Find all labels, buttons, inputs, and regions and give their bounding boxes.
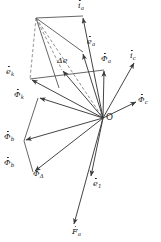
- label-phi-b-lower-subscript: b: [11, 162, 15, 168]
- vector-phi-b: [26, 118, 103, 140]
- label-phi-k-symbol: Φ: [14, 91, 21, 99]
- label-i-a-subscript: a: [81, 5, 84, 11]
- label-phi-b-lower-symbol: Φ: [4, 159, 11, 167]
- construction-line-ea: [36, 18, 83, 52]
- construction-line-top: [36, 16, 83, 18]
- label-e-a: ea: [87, 38, 95, 47]
- label-i-c: ic: [130, 52, 136, 61]
- label-e-k-symbol: e: [6, 68, 11, 76]
- label-e-a-symbol: e: [87, 38, 92, 46]
- label-phi-k: Φk: [14, 91, 24, 100]
- label-phi-b-upper-symbol: Φ: [4, 133, 11, 141]
- label-origin: O: [106, 113, 113, 122]
- phasor-diagram-canvas: [0, 0, 161, 242]
- construction-line-ek-phia: [30, 70, 104, 79]
- label-phi-c-subscript: c: [145, 99, 148, 105]
- label-delta-e-symbol: Δe: [57, 56, 68, 65]
- label-phi-a: Φa: [101, 55, 111, 64]
- label-e-a-subscript: a: [92, 41, 95, 47]
- label-e-1: e1: [93, 180, 101, 189]
- label-e-1-subscript: 1: [98, 183, 102, 189]
- label-i-a-symbol: i: [78, 2, 81, 10]
- label-F-a-symbol: F: [72, 228, 78, 236]
- label-phi-c-symbol: Φ: [138, 96, 145, 104]
- label-i-c-symbol: i: [130, 52, 133, 60]
- label-phi-b-upper: Φb: [4, 133, 14, 142]
- label-phi-delta-symbol: Φ: [33, 169, 40, 178]
- label-phi-a-symbol: Φ: [101, 55, 108, 63]
- label-phi-delta-subscript: Δ: [40, 173, 44, 179]
- vector-F-a: [74, 118, 103, 224]
- dashed-line-ek: [30, 18, 36, 79]
- label-e-k: ek: [6, 68, 14, 77]
- label-origin-symbol: O: [106, 112, 113, 122]
- label-e-1-symbol: e: [93, 180, 98, 188]
- label-i-a: ia: [78, 2, 84, 11]
- label-phi-b-lower: Φb: [4, 159, 14, 168]
- label-delta-e: Δe: [57, 57, 68, 65]
- construction-line-phib-phidelta: [24, 141, 33, 172]
- label-e-k-subscript: k: [11, 71, 14, 77]
- vector-e-1: [91, 118, 103, 176]
- vector-phi-delta: [35, 118, 103, 171]
- label-F-a: Fa: [72, 228, 81, 237]
- phasor-diagram: ia ea Δe Φa ic Φc ek Φk Φb Φb ΦΔ e1 Fa O: [0, 0, 161, 242]
- label-i-c-subscript: c: [133, 55, 136, 61]
- label-phi-c: Φc: [138, 96, 148, 105]
- vector-i-c: [103, 63, 134, 118]
- construction-line-phik-phib: [24, 98, 38, 141]
- accent-dot-icon: [79, 0, 80, 1]
- vector-i-a: [83, 18, 103, 118]
- label-phi-b-upper-subscript: b: [11, 136, 15, 142]
- vector-phi-a: [103, 71, 104, 118]
- phasor-vectors: [26, 18, 136, 224]
- label-F-a-subscript: a: [78, 231, 81, 237]
- vector-delta-e: [63, 71, 103, 118]
- label-phi-delta: ΦΔ: [33, 170, 44, 179]
- label-phi-k-subscript: k: [21, 94, 24, 100]
- label-phi-a-subscript: a: [108, 58, 111, 64]
